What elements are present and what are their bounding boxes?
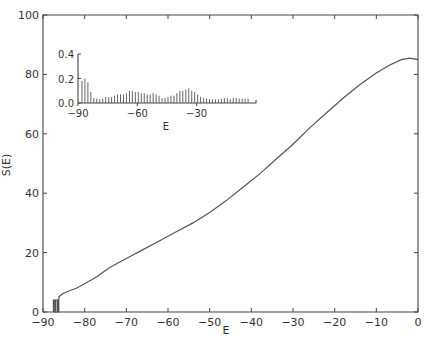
x-tick-label: −60: [156, 316, 179, 329]
x-tick-label: 0: [415, 316, 422, 329]
inset-axes: [78, 54, 256, 103]
y-tick-label: 60: [25, 128, 39, 141]
x-tick-label: −10: [365, 316, 388, 329]
inset-x-ticks: −90−60−30: [67, 103, 207, 119]
y-tick-label: 100: [18, 9, 39, 22]
main-x-ticks: −90−80−70−60−50−40−30−20−100: [31, 15, 421, 329]
inset-y-tick-label: 0.2: [58, 74, 74, 85]
inset-plot: −90−60−30 0.00.20.4 E: [58, 49, 256, 132]
x-tick-label: −20: [323, 316, 346, 329]
inset-x-tick-label: −30: [186, 108, 207, 119]
chart-svg: −90−80−70−60−50−40−30−20−100 02040608010…: [0, 0, 433, 345]
x-tick-label: −80: [73, 316, 96, 329]
inset-y-tick-label: 0.0: [58, 98, 74, 109]
s-of-e-curve: [53, 58, 418, 312]
x-tick-label: −50: [198, 316, 221, 329]
x-axis-label: E: [223, 324, 230, 337]
x-tick-label: −30: [281, 316, 304, 329]
y-tick-label: 40: [25, 187, 39, 200]
inset-x-axis-label: E: [163, 121, 169, 132]
x-tick-label: −70: [115, 316, 138, 329]
main-plot-frame: [43, 15, 418, 312]
x-tick-label: −40: [240, 316, 263, 329]
y-tick-label: 20: [25, 247, 39, 260]
y-tick-label: 0: [32, 306, 39, 319]
inset-x-tick-label: −90: [67, 108, 88, 119]
y-axis-label: S(E): [0, 154, 13, 177]
inset-y-tick-label: 0.4: [58, 49, 74, 60]
inset-x-tick-label: −60: [127, 108, 148, 119]
inset-bars: [82, 79, 248, 104]
chart-figure: −90−80−70−60−50−40−30−20−100 02040608010…: [0, 0, 433, 345]
y-tick-label: 80: [25, 68, 39, 81]
